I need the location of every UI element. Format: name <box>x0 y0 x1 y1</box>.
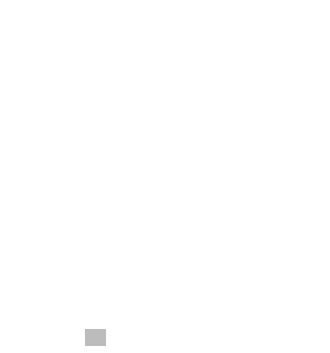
lattice-diagrams <box>0 0 330 353</box>
legend-swatch <box>85 329 106 346</box>
